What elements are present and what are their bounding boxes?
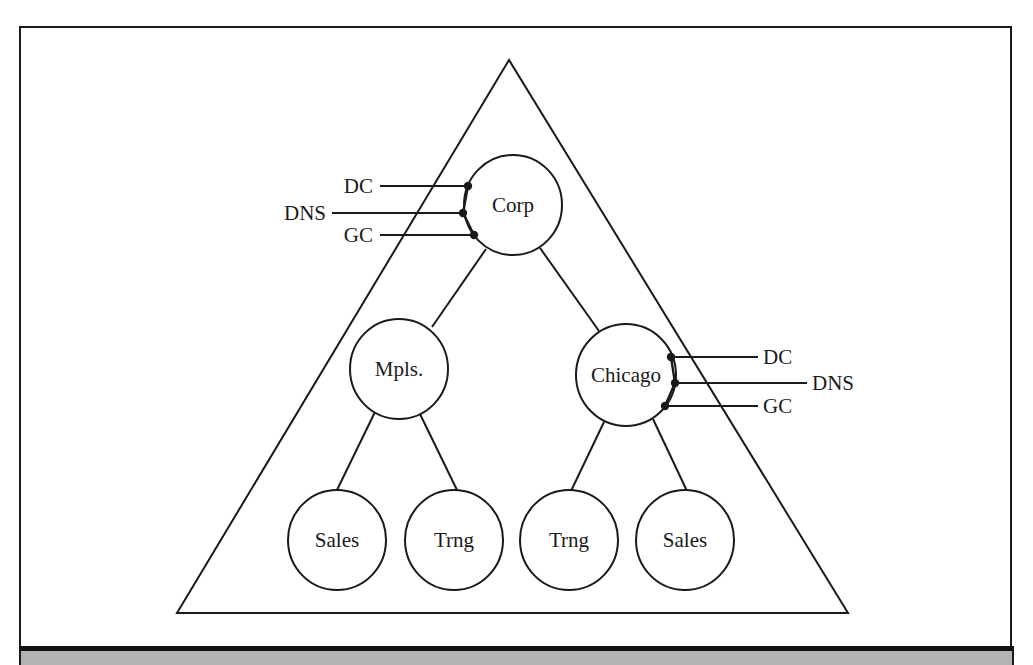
node-label: Mpls. [375,357,423,381]
node-label: Sales [663,528,707,552]
node-mpls-sales: Sales [288,490,386,590]
node-label: Sales [315,528,359,552]
edge-chicago-to-chicago-sales [653,419,687,491]
edge-corp-to-chicago [540,248,599,331]
node-mpls: Mpls. [350,319,448,419]
node-mpls-trng: Trng [405,490,503,590]
node-corp: Corp [464,155,562,255]
role-corp-dns: DNS [284,201,467,225]
caption-band-right-edge [1012,651,1014,665]
edge-mpls-to-mpls-trng [419,412,457,490]
role-label: DNS [812,371,854,395]
node-chicago: Chicago [576,324,676,426]
domain-nodes: CorpMpls.ChicagoSalesTrngTrngSales [288,155,734,590]
role-corp-gc: GC [344,223,478,247]
role-label: DNS [284,201,326,225]
role-label: GC [763,394,792,418]
node-label: Trng [549,528,590,552]
node-label: Chicago [591,363,661,387]
node-chicago-trng: Trng [520,490,618,590]
edge-corp-to-mpls [432,249,486,327]
role-label: DC [763,345,792,369]
role-chicago-dns: DNS [671,371,854,395]
edge-mpls-to-mpls-sales [337,412,375,490]
forest-triangle [177,60,848,613]
caption-band [21,651,1012,665]
node-label: Corp [492,193,534,217]
node-label: Trng [434,528,475,552]
role-label: GC [344,223,373,247]
edge-chicago-to-chicago-trng [571,422,604,491]
node-chicago-sales: Sales [636,490,734,590]
role-corp-dc: DC [344,174,472,198]
domain-tree-diagram: CorpMpls.ChicagoSalesTrngTrngSales DCDNS… [0,0,1033,665]
caption-band-left-edge [19,651,21,665]
role-label: DC [344,174,373,198]
